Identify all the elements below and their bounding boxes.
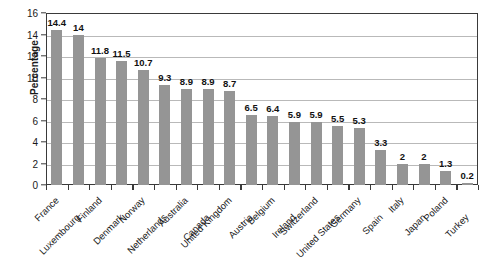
bar-chart: Percentage 0246810121416 14.41411.811.51… (0, 0, 497, 266)
x-axis-labels: FranceLuxembourgFinlandDenmarkNorwayNeth… (0, 0, 497, 266)
